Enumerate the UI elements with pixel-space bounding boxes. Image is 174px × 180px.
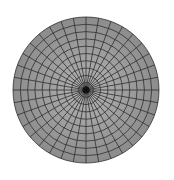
polar-grid-svg: [0, 0, 174, 180]
center-point: [83, 87, 90, 94]
polar-grid-figure: Polar coordinate grid: [0, 0, 174, 180]
